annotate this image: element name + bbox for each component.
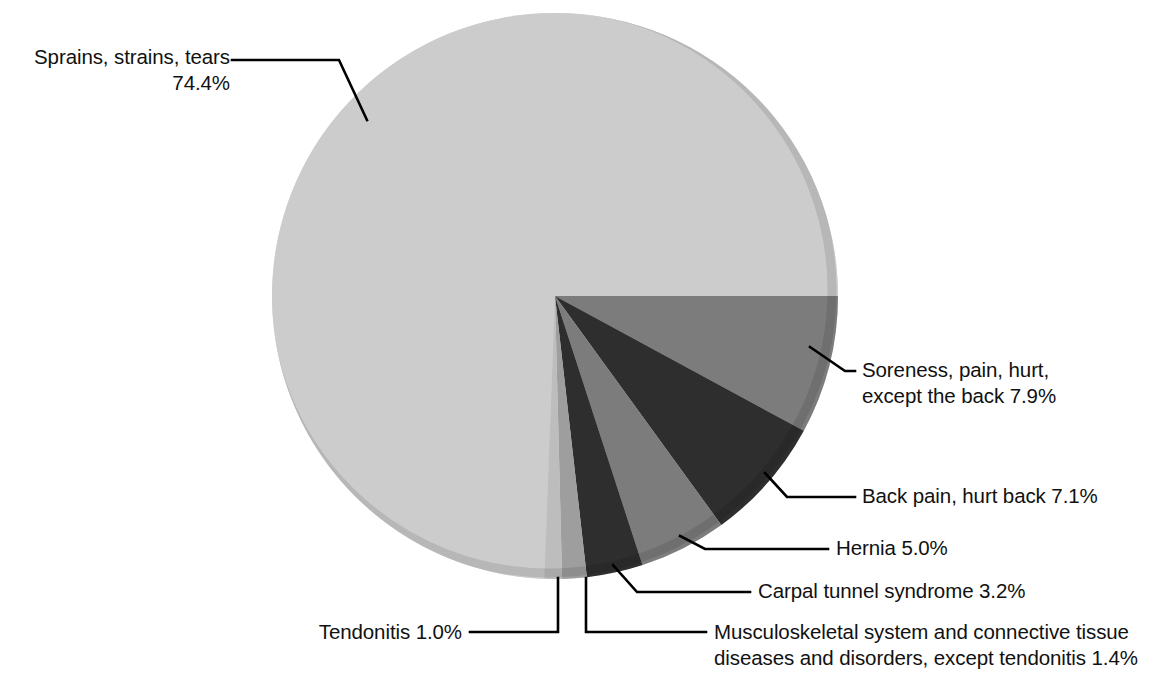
label-soreness: Soreness, pain, hurt, except the back 7.… bbox=[862, 357, 1056, 409]
leader-line-tendonitis bbox=[470, 578, 558, 632]
label-tendonitis: Tendonitis 1.0% bbox=[244, 619, 462, 645]
label-sprains: Sprains, strains, tears 74.4% bbox=[24, 44, 230, 96]
leader-line-hernia bbox=[680, 536, 828, 549]
label-musculoskeletal: Musculoskeletal system and connective ti… bbox=[714, 619, 1138, 671]
label-soreness-line2: except the back 7.9% bbox=[862, 383, 1056, 409]
label-hernia: Hernia 5.0% bbox=[836, 535, 948, 561]
leader-line-back-pain bbox=[765, 473, 855, 497]
label-hernia-text: Hernia 5.0% bbox=[836, 536, 948, 559]
label-carpal-tunnel: Carpal tunnel syndrome 3.2% bbox=[758, 578, 1025, 604]
pie-chart-figure: Sprains, strains, tears 74.4% Soreness, … bbox=[0, 0, 1174, 694]
label-sprains-line1: Sprains, strains, tears bbox=[34, 45, 230, 68]
label-carpal-tunnel-text: Carpal tunnel syndrome 3.2% bbox=[758, 579, 1025, 602]
label-tendonitis-text: Tendonitis 1.0% bbox=[319, 620, 462, 643]
label-musculoskeletal-line2: diseases and disorders, except tendoniti… bbox=[714, 645, 1138, 671]
leader-line-carpal-tunnel bbox=[613, 565, 750, 592]
label-musculoskeletal-line1: Musculoskeletal system and connective ti… bbox=[714, 620, 1129, 643]
label-back-pain: Back pain, hurt back 7.1% bbox=[862, 483, 1098, 509]
label-soreness-line1: Soreness, pain, hurt, bbox=[862, 358, 1049, 381]
label-sprains-line2: 74.4% bbox=[24, 70, 230, 96]
leader-line-musculoskeletal bbox=[586, 578, 706, 632]
label-back-pain-text: Back pain, hurt back 7.1% bbox=[862, 484, 1098, 507]
